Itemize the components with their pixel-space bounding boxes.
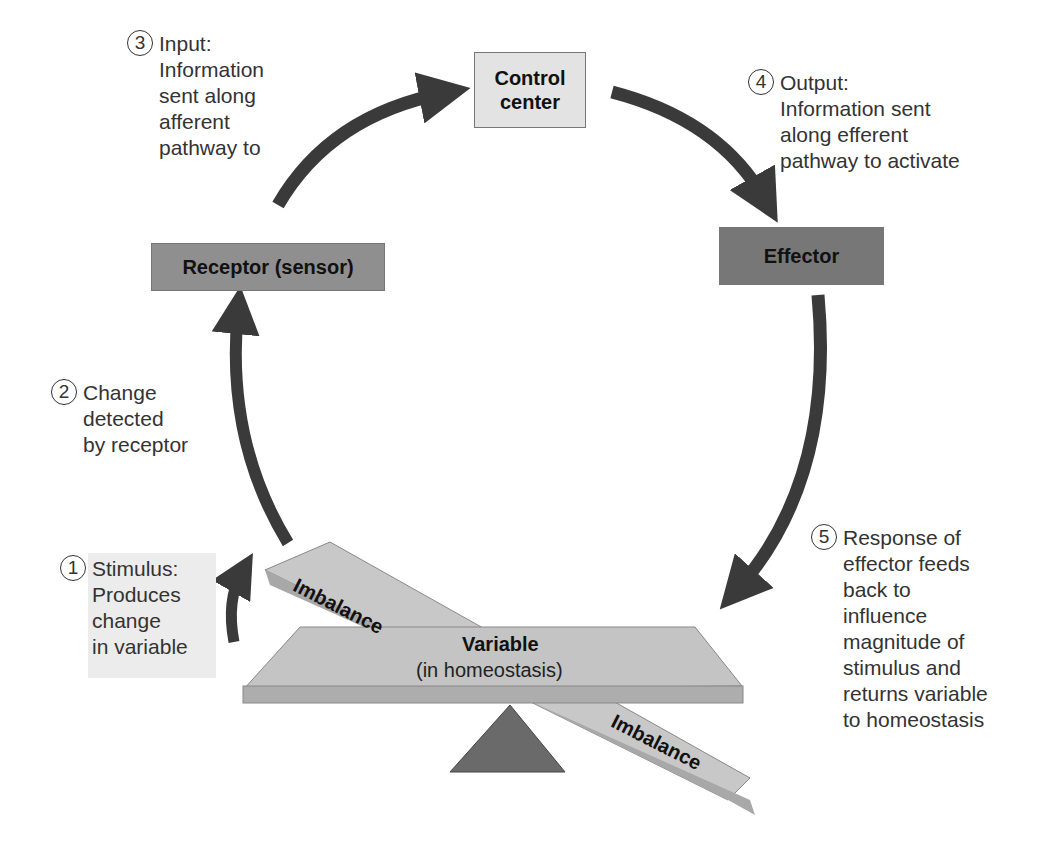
arrow-effector-to-variable — [737, 295, 821, 590]
step-3-text: Input: Information sent along afferent p… — [159, 32, 264, 159]
step-number-2: 2 — [51, 379, 77, 405]
fulcrum — [450, 705, 565, 772]
arrow-control-to-effector — [612, 92, 765, 200]
step-3-input: 3 Input: Information sent along afferent… — [159, 31, 264, 161]
variable-plank-edge — [243, 686, 743, 703]
step-2-detected: 2 Change detected by receptor — [83, 380, 188, 458]
receptor-box: Receptor (sensor) — [151, 243, 385, 291]
arrow-variable-to-receptor — [236, 310, 288, 543]
step-1-text: Stimulus: Produces change in variable — [92, 557, 188, 658]
step-number-4: 4 — [748, 69, 774, 95]
arrow-stimulus — [231, 572, 242, 642]
step-5-response: 5 Response of effector feeds back to inf… — [843, 525, 988, 733]
step-5-text: Response of effector feeds back to influ… — [843, 526, 988, 731]
effector-label: Effector — [764, 244, 840, 268]
step-number-1: 1 — [60, 555, 86, 581]
step-2-text: Change detected by receptor — [83, 381, 188, 456]
step-4-output: 4 Output: Information sent along efferen… — [780, 70, 960, 174]
control-center-label: Control center — [494, 66, 565, 114]
step-number-5: 5 — [811, 524, 837, 550]
arrow-receptor-to-control — [278, 93, 445, 205]
variable-sub-label: (in homeostasis) — [416, 659, 563, 682]
variable-label: Variable — [462, 633, 539, 656]
control-center-box: Control center — [474, 52, 586, 128]
step-1-stimulus: 1 Stimulus: Produces change in variable — [92, 556, 188, 660]
receptor-label: Receptor (sensor) — [182, 255, 353, 279]
effector-box: Effector — [719, 227, 884, 285]
step-4-text: Output: Information sent along efferent … — [780, 71, 960, 172]
step-number-3: 3 — [127, 30, 153, 56]
